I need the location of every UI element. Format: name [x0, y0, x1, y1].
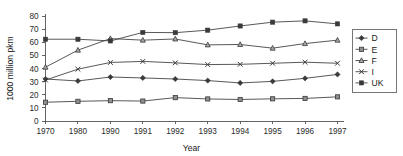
x-tick-label: 1991: [134, 127, 153, 136]
data-point-marker-F: [335, 37, 340, 42]
y-tick-label: 40: [29, 65, 39, 74]
data-point-marker-D: [205, 78, 210, 83]
legend-label-E: E: [372, 45, 378, 55]
data-point-marker-UK: [76, 37, 80, 41]
series-line-D: [46, 74, 338, 83]
data-point-marker-UK: [271, 20, 275, 24]
x-tick-label: 1990: [101, 127, 120, 136]
x-tick-label: 1980: [69, 127, 88, 136]
series-D: [43, 72, 340, 86]
series-UK: [43, 19, 339, 43]
chart-plot-area: 01020304050607080 1970198019901991199219…: [0, 0, 403, 156]
data-point-marker-F: [43, 64, 48, 69]
legend-label-D: D: [372, 33, 378, 43]
y-tick-label: 80: [29, 12, 39, 21]
y-tick-label: 30: [29, 78, 39, 87]
data-point-marker-UK: [335, 22, 339, 26]
data-point-marker-E: [206, 97, 210, 101]
series-line-I: [46, 61, 338, 80]
data-point-marker-E: [76, 99, 80, 103]
data-point-marker-D: [270, 79, 275, 84]
legend-label-I: I: [372, 67, 374, 77]
x-tick-label: 1993: [199, 127, 218, 136]
data-point-marker-E: [173, 96, 177, 100]
series-E: [43, 95, 339, 105]
y-tick-label: 10: [29, 104, 39, 113]
data-point-marker-E: [43, 100, 47, 104]
y-tick-label: 0: [34, 117, 39, 126]
y-tick-label: 60: [29, 38, 39, 47]
data-point-marker-D: [302, 76, 307, 81]
x-tick-label: 1997: [328, 127, 347, 136]
data-point-marker-UK: [206, 28, 210, 32]
data-point-marker-E: [141, 99, 145, 103]
y-axis-title: 1000 million pkm: [5, 36, 15, 100]
x-tick-label: 1992: [166, 127, 185, 136]
x-tick-label: 1994: [231, 127, 250, 136]
data-point-marker-D: [335, 72, 340, 77]
x-tick-label: 1970: [36, 127, 55, 136]
series-line-E: [46, 97, 338, 102]
legend-label-UK: UK: [372, 78, 384, 88]
x-axis-tick-marks: [46, 121, 338, 124]
data-point-marker-E: [271, 97, 275, 101]
data-point-marker-legend-E: [359, 47, 363, 51]
y-tick-label: 20: [29, 91, 39, 100]
data-point-marker-D: [140, 75, 145, 80]
line-chart: 01020304050607080 1970198019901991199219…: [0, 0, 403, 156]
data-point-marker-E: [303, 96, 307, 100]
y-tick-label: 70: [29, 25, 39, 34]
x-tick-label: 1996: [296, 127, 315, 136]
data-point-marker-UK: [43, 37, 47, 41]
data-point-marker-legend-UK: [359, 81, 363, 85]
series-F: [43, 36, 340, 69]
data-point-marker-D: [75, 78, 80, 83]
data-point-marker-D: [238, 80, 243, 85]
x-axis-title: Year: [183, 143, 201, 153]
data-point-marker-UK: [141, 30, 145, 34]
data-point-marker-E: [238, 97, 242, 101]
series-line-UK: [46, 21, 338, 41]
data-point-marker-D: [173, 76, 178, 81]
data-point-marker-E: [108, 99, 112, 103]
data-point-marker-UK: [108, 39, 112, 43]
x-tick-label: 1995: [264, 127, 283, 136]
y-tick-label: 50: [29, 51, 39, 60]
y-axis-tick-labels: 01020304050607080: [29, 12, 39, 126]
x-axis-tick-labels: 1970198019901991199219931994199519961997: [36, 127, 347, 136]
legend-label-F: F: [372, 56, 377, 66]
data-point-marker-D: [108, 74, 113, 79]
data-point-marker-E: [335, 95, 339, 99]
data-point-marker-UK: [238, 24, 242, 28]
chart-legend: DEFIUK: [353, 29, 397, 92]
data-series-group: [43, 19, 340, 105]
data-point-marker-UK: [173, 31, 177, 35]
data-point-marker-UK: [303, 19, 307, 23]
